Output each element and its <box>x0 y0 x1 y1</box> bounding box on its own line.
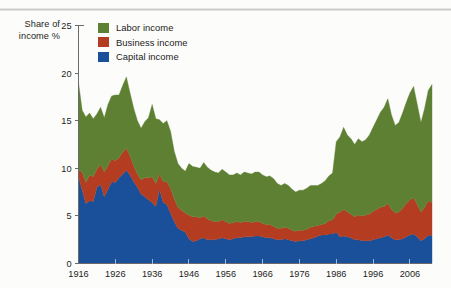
y-tick-label-10: 10 <box>61 164 71 174</box>
x-tick-label-1986: 1986 <box>326 269 346 279</box>
stacked-area-chart: 0510152025191619261936194619561966197619… <box>0 0 451 288</box>
y-tick-label-20: 20 <box>61 69 71 79</box>
legend-swatch-capital <box>98 52 109 62</box>
legend-swatch-business <box>98 37 109 47</box>
legend-label-capital: Capital income <box>116 51 179 62</box>
x-tick-label-1946: 1946 <box>179 269 199 279</box>
legend-item-labor: Labor income <box>98 22 188 33</box>
x-tick-label-1936: 1936 <box>142 269 162 279</box>
x-tick-label-1956: 1956 <box>216 269 236 279</box>
x-tick-label-1926: 1926 <box>105 269 125 279</box>
area-series-group <box>79 77 433 264</box>
legend-item-business: Business income <box>98 37 188 48</box>
legend-label-business: Business income <box>116 37 188 48</box>
x-tick-label-1966: 1966 <box>252 269 272 279</box>
x-tick-label-1996: 1996 <box>363 269 383 279</box>
y-tick-label-5: 5 <box>66 211 71 221</box>
x-tick-label-1976: 1976 <box>289 269 309 279</box>
figure-root: Share of income % 0510152025191619261936… <box>0 0 451 288</box>
y-tick-label-0: 0 <box>66 259 71 269</box>
x-tick-label-2006: 2006 <box>400 269 420 279</box>
legend-swatch-labor <box>98 23 109 33</box>
legend-item-capital: Capital income <box>98 51 188 62</box>
chart-legend: Labor income Business income Capital inc… <box>98 22 188 62</box>
y-tick-label-25: 25 <box>61 21 71 31</box>
x-tick-label-1916: 1916 <box>68 269 88 279</box>
legend-label-labor: Labor income <box>116 22 173 33</box>
chart-plot-area: 0510152025191619261936194619561966197619… <box>0 0 451 288</box>
y-tick-label-15: 15 <box>61 116 71 126</box>
